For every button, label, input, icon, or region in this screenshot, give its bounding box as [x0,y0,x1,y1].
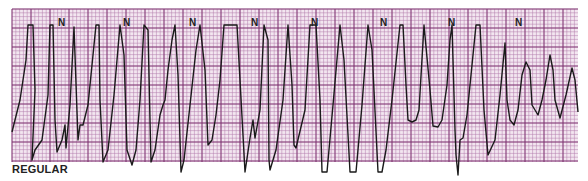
n-marker: N [251,17,258,28]
n-marker: N [311,17,318,28]
n-marker: N [189,17,196,28]
n-marker: N [123,17,130,28]
rhythm-label: REGULAR [12,163,68,175]
n-marker: N [515,17,522,28]
n-marker: N [380,17,387,28]
n-marker: N [58,17,65,28]
ecg-strip [0,0,588,181]
n-marker: N [448,17,455,28]
